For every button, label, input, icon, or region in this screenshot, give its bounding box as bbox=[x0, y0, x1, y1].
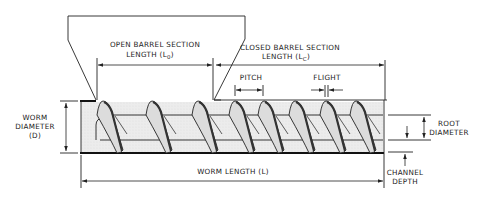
channel-depth-dimension: CHANNEL DEPTH bbox=[387, 152, 424, 186]
worm-diameter-label-1: WORM bbox=[22, 113, 47, 122]
root-diameter-label-1: ROOT bbox=[438, 119, 460, 128]
closed-barrel-label-2: LENGTH (LC) bbox=[262, 52, 310, 62]
pitch-dimension: PITCH bbox=[235, 73, 263, 96]
worm-diameter-dimension: WORM DIAMETER (D) bbox=[15, 101, 78, 153]
flight-dimension: FLIGHT bbox=[311, 73, 343, 97]
open-barrel-dimension: OPEN BARREL SECTION LENGTH (L0) bbox=[97, 40, 213, 100]
open-barrel-label-2: LENGTH (L0) bbox=[126, 50, 174, 60]
worm-diameter-label-3: (D) bbox=[29, 131, 41, 140]
worm-length-label: WORM LENGTH (L) bbox=[197, 167, 269, 176]
closed-barrel-label-1: CLOSED BARREL SECTION bbox=[240, 43, 340, 52]
open-barrel-label-1: OPEN BARREL SECTION bbox=[110, 40, 200, 49]
worm-length-dimension: WORM LENGTH (L) bbox=[81, 155, 384, 188]
root-diameter-label-2: DIAMETER bbox=[429, 128, 469, 137]
screw-nomenclature-diagram: OPEN BARREL SECTION LENGTH (L0) CLOSED B… bbox=[0, 0, 490, 203]
closed-barrel-dimension: CLOSED BARREL SECTION LENGTH (LC) bbox=[216, 43, 385, 100]
flight-label: FLIGHT bbox=[313, 73, 341, 82]
worm-diameter-label-2: DIAMETER bbox=[15, 122, 55, 131]
pitch-label: PITCH bbox=[240, 73, 262, 82]
root-diameter-dimension: ROOT DIAMETER bbox=[388, 115, 469, 140]
channel-depth-label-1: CHANNEL bbox=[387, 168, 424, 177]
channel-depth-label-2: DEPTH bbox=[392, 177, 418, 186]
